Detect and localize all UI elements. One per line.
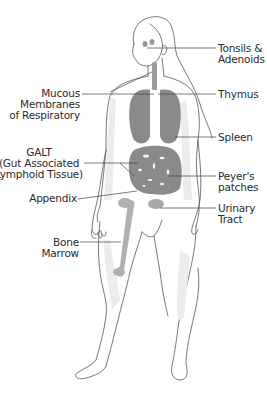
leader-mucous-diag	[110, 72, 152, 92]
label-galt: GALT (Gut Associated Lymphoid Tissue)	[0, 147, 83, 180]
label-urinary-line2: Tract	[218, 214, 255, 225]
label-thymus-line1: Thymus	[218, 89, 258, 100]
label-bone-marrow-line2: Marrow	[41, 248, 79, 259]
intestines	[129, 146, 182, 195]
label-tonsils-adenoids: Tonsils & Adenoids	[218, 43, 265, 65]
label-bone-marrow: Bone Marrow	[41, 237, 79, 259]
label-thymus: Thymus	[218, 89, 258, 100]
label-peyers-patches: Peyer's patches	[218, 171, 258, 193]
label-appendix-line1: Appendix	[29, 193, 77, 204]
right-arm	[192, 140, 201, 234]
label-galt-line3: Lymphoid Tissue)	[0, 169, 83, 180]
lung-left	[129, 90, 150, 144]
lung-right	[160, 90, 181, 144]
label-spleen-line1: Spleen	[218, 132, 253, 143]
label-appendix: Appendix	[29, 193, 77, 204]
trachea	[152, 62, 157, 90]
label-mucous-membranes: Mucous Membranes of Respiratory	[9, 88, 80, 121]
label-tonsils-line2: Adenoids	[218, 54, 265, 65]
bladder	[148, 199, 164, 209]
label-urinary-tract: Urinary Tract	[218, 203, 255, 225]
label-mucous-line3: of Respiratory	[9, 110, 80, 121]
label-peyers-line2: patches	[218, 182, 258, 193]
tonsil-right	[150, 39, 155, 45]
face-outline	[133, 24, 163, 66]
label-spleen: Spleen	[218, 132, 253, 143]
tonsil-left	[143, 41, 148, 47]
